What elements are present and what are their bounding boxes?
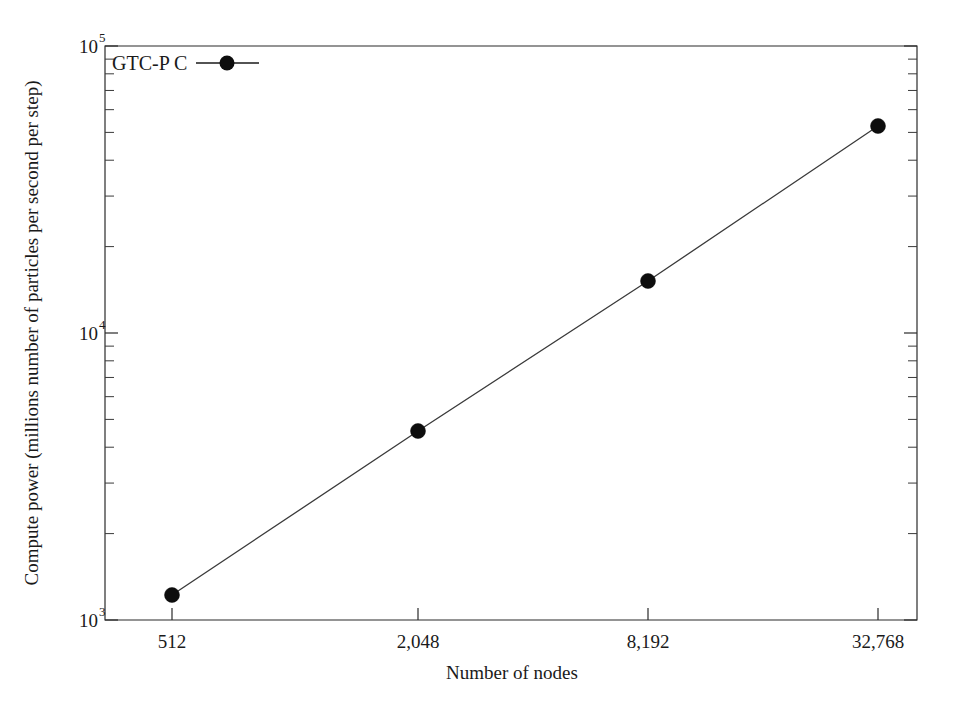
x-axis-major-ticks	[172, 608, 878, 620]
x-tick-label-32768: 32,768	[852, 631, 904, 652]
legend-label-gtc-p-c: GTC-P C	[112, 52, 187, 74]
y-tick-label-1000-mantissa: 10	[79, 610, 98, 631]
series-gtc-p-c	[165, 119, 886, 603]
x-tick-label-512: 512	[158, 631, 187, 652]
data-point-512	[165, 588, 180, 603]
data-point-32768	[871, 119, 886, 134]
x-tick-labels: 512 2,048 8,192 32,768	[158, 631, 904, 652]
y-tick-label-10000-exponent: 4	[99, 317, 106, 332]
x-axis-title: Number of nodes	[446, 662, 578, 683]
x-tick-label-8192: 8,192	[627, 631, 670, 652]
series-line-gtc-p-c	[172, 126, 878, 595]
y-tick-labels: 10 3 10 4 10 5	[79, 30, 106, 631]
y-tick-label-100000-mantissa: 10	[79, 36, 98, 57]
chart-legend: GTC-P C	[112, 52, 259, 74]
y-axis-title: Compute power (millions number of partic…	[21, 81, 43, 586]
chart-page: GTC-P C 10 3 10 4 10 5 512 2,048 8,192 3…	[0, 0, 954, 704]
line-chart: GTC-P C 10 3 10 4 10 5 512 2,048 8,192 3…	[0, 0, 954, 704]
y-axis-major-ticks	[105, 46, 917, 620]
data-point-8192	[641, 274, 656, 289]
y-tick-label-100000-exponent: 5	[99, 30, 106, 45]
y-tick-label-1000-exponent: 3	[99, 604, 106, 619]
legend-sample-marker	[220, 56, 235, 71]
x-tick-label-2048: 2,048	[397, 631, 440, 652]
y-axis-minor-ticks	[105, 59, 917, 533]
y-tick-label-10000-mantissa: 10	[79, 323, 98, 344]
data-point-2048	[411, 424, 426, 439]
plot-frame	[105, 46, 917, 620]
